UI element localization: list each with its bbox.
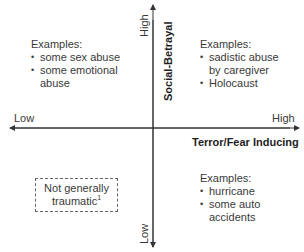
vertical-axis-title: Social-Betrayal xyxy=(162,22,174,101)
horizontal-axis-title: Terror/Fear Inducing xyxy=(192,136,299,148)
list-item: some emotional abuse xyxy=(31,64,126,90)
examples-heading: Examples: xyxy=(200,172,271,185)
quadrant-top-left: Examples: some sex abuse some emotional … xyxy=(31,38,126,90)
examples-list: sadistic abuse by caregiver Holocaust xyxy=(200,51,289,90)
examples-list: some sex abuse some emotional abuse xyxy=(31,51,126,90)
vertical-high-label: High xyxy=(138,14,151,37)
quadrant-top-right: Examples: sadistic abuse by caregiver Ho… xyxy=(200,38,289,90)
horizontal-high-label: High xyxy=(272,112,295,125)
list-item: some sex abuse xyxy=(31,51,126,64)
horizontal-low-label: Low xyxy=(14,112,34,125)
footnote-marker: 1 xyxy=(97,194,101,201)
list-item: some auto accidents xyxy=(200,198,271,224)
list-item: Holocaust xyxy=(200,77,289,90)
examples-heading: Examples: xyxy=(200,38,289,51)
examples-heading: Examples: xyxy=(31,38,126,51)
quadrant-bottom-right: Examples: hurricane some auto accidents xyxy=(200,172,271,224)
list-item: sadistic abuse by caregiver xyxy=(200,51,289,77)
vertical-low-label: Low xyxy=(138,224,151,244)
examples-list: hurricane some auto accidents xyxy=(200,185,271,224)
not-traumatic-box: Not generally traumatic1 xyxy=(35,178,118,212)
list-item: hurricane xyxy=(200,185,271,198)
